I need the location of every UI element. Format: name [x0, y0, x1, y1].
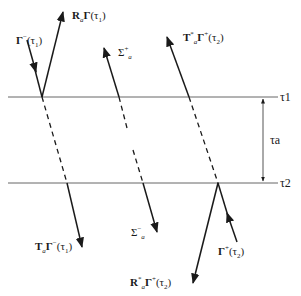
gamma-plus-tau2-label: Γ+(τ2): [218, 245, 244, 260]
internal-path-mid-lower-dashed: [133, 150, 143, 183]
sigma-plus-label: Σ+a: [118, 46, 132, 61]
incident-gamma-minus-line: [35, 70, 42, 97]
incident-gamma-plus-line: [218, 183, 228, 216]
R-star-gamma-plus-tau2-label: R*aΓ+(τ2): [130, 276, 171, 291]
source-sigma-minus-arrow: [143, 183, 157, 232]
internal-path-mid-upper-dashed: [119, 97, 127, 128]
tau1-label: τ1: [280, 91, 291, 103]
gamma-minus-tau1-label: Γ−(τ1): [16, 34, 42, 49]
internal-path-right-dashed: [189, 97, 218, 183]
R-gamma-tau1-label: RaΓ(τ1): [72, 10, 106, 24]
reflected-R-star-gamma-plus-arrow: [193, 183, 218, 283]
internal-path-left-dashed: [42, 97, 67, 183]
tau2-label: τ2: [280, 177, 291, 189]
transmitted-T-gamma-minus-arrow: [67, 183, 82, 247]
T-star-gamma-plus-tau2-label: T*aΓ+(τ2): [183, 31, 224, 46]
incident-gamma-plus-arrow: [227, 213, 237, 242]
source-sigma-plus-arrow: [104, 48, 119, 97]
transmitted-T-star-gamma-plus-arrow: [167, 37, 189, 97]
sigma-minus-label: Σ−a: [131, 226, 145, 241]
reflected-R-gamma-arrow: [42, 12, 63, 97]
tau-a-label: τa: [270, 134, 280, 146]
T-gamma-minus-tau1-label: TaΓ−(τ1): [35, 240, 72, 255]
